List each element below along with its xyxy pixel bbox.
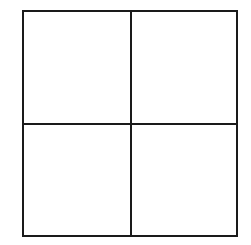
cell-bottom-right [132,125,236,235]
cell-bottom-left [24,125,130,235]
two-by-two-grid [22,10,238,237]
cell-top-right [132,12,236,123]
horizontal-divider [24,123,236,125]
cell-top-left [24,12,130,123]
